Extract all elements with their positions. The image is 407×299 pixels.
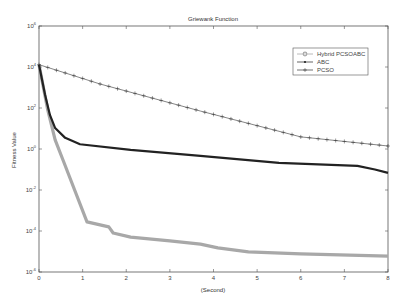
x-tick-label: 6	[299, 275, 303, 281]
x-tick-label: 5	[255, 275, 259, 281]
x-tick-label: 7	[343, 275, 347, 281]
x-tick-label: 1	[81, 275, 85, 281]
legend-entry: Hybrid PCSOABC	[317, 51, 366, 57]
y-tick-label: 10-6	[26, 267, 37, 275]
chart-title: Griewank Function	[188, 16, 238, 22]
x-tick-label: 8	[386, 275, 390, 281]
y-tick-label: 106	[27, 21, 37, 29]
x-axis-label: (Second)	[201, 287, 225, 293]
x-tick-label: 2	[125, 275, 129, 281]
legend-entry: PCSO	[317, 67, 334, 73]
y-tick-label: 100	[27, 144, 37, 152]
x-tick-label: 3	[168, 275, 172, 281]
x-tick-label: 4	[212, 275, 216, 281]
y-tick-label: 104	[27, 62, 37, 70]
y-axis-label: Fitness Value	[11, 131, 17, 168]
y-tick-label: 10-4	[26, 226, 37, 234]
chart: Griewank Function 012345678 106104102100…	[0, 0, 407, 299]
y-tick-label: 10-2	[26, 185, 37, 193]
x-tick-label: 0	[37, 275, 41, 281]
legend: Hybrid PCSOABCABCPCSO	[293, 48, 368, 75]
legend-entry: ABC	[317, 59, 330, 65]
y-tick-label: 102	[27, 103, 37, 111]
